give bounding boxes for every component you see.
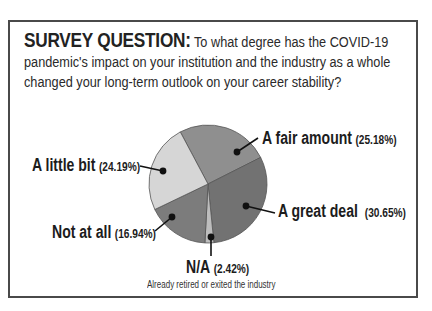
label-not-at-all: Not at all (16.94%) [52,222,156,243]
pie-slices [149,125,267,243]
label-a-little-bit: A little bit (24.19%) [32,155,140,176]
label-a-fair-amount: A fair amount (25.18%) [262,128,397,149]
label-a-great-deal: A great deal (30.65%) [278,201,406,222]
label-na-note: Already retired or exited the industry [147,279,276,290]
label-na: N/A (2.42%) [186,257,249,278]
